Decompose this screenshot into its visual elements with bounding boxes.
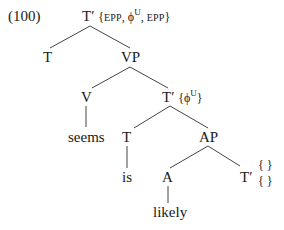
node-root-tbar: T′ {EPP, ϕU, EPP} <box>82 9 170 25</box>
node-v: V <box>81 90 92 105</box>
edge-root-vp <box>90 26 130 48</box>
node-tbar-low: T′ <box>240 170 252 185</box>
edge-vp-v <box>92 67 130 88</box>
edge-vp-tbar <box>130 67 168 88</box>
empty-feature-sets: { } { } <box>258 157 273 189</box>
node-label: T′ <box>82 8 94 24</box>
node-t: T <box>43 50 52 65</box>
tree-edges <box>0 0 284 230</box>
edge-ap-a <box>170 146 208 168</box>
edge-tbar-ap <box>170 106 208 128</box>
node-tbar-mid: T′ {ϕU} <box>162 90 203 106</box>
example-number: (100) <box>8 9 41 24</box>
edge-ap-tbar-low <box>208 146 240 166</box>
word-seems: seems <box>68 130 105 145</box>
empty-feature-set-bottom: { } <box>258 173 273 189</box>
empty-feature-set-top: { } <box>258 157 273 173</box>
edge-root-t <box>50 26 90 48</box>
node-t-mid: T <box>122 130 131 145</box>
node-ap: AP <box>199 130 218 145</box>
feature-set: {EPP, ϕU, EPP} <box>98 10 170 24</box>
edge-tbar-t <box>134 106 170 128</box>
node-label: T′ <box>162 89 174 105</box>
node-vp: VP <box>121 50 140 65</box>
node-a: A <box>162 170 173 185</box>
word-is: is <box>122 170 132 185</box>
word-likely: likely <box>153 205 187 220</box>
feature-set: {ϕU} <box>178 91 202 105</box>
